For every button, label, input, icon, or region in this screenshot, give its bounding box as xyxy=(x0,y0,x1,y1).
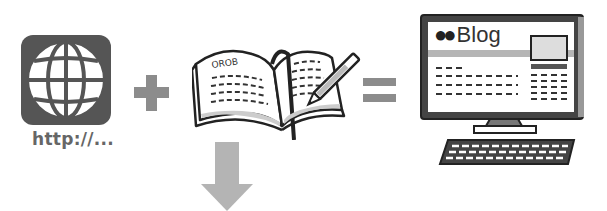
equals-icon xyxy=(363,75,397,105)
globe-icon xyxy=(21,35,111,125)
notebook-pen-icon: OROB xyxy=(192,40,362,140)
blog-word: Blog xyxy=(457,22,501,47)
notebook-illustration: OROB xyxy=(192,40,362,140)
plus-icon xyxy=(134,75,170,111)
blog-header: ●●Blog xyxy=(434,22,501,48)
arrow-down-icon xyxy=(201,142,253,211)
globe-tile xyxy=(21,35,111,125)
blog-computer: ●●Blog xyxy=(418,12,590,167)
blog-dots: ●● xyxy=(434,22,453,47)
url-caption: http://... xyxy=(32,129,114,149)
